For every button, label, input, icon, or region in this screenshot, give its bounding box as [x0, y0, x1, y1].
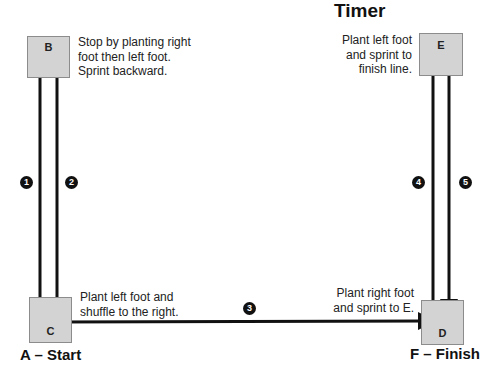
station-d: D — [421, 300, 464, 345]
station-b-letter: B — [28, 41, 69, 53]
finish-label: F – Finish — [410, 345, 480, 362]
station-c-letter: C — [30, 325, 71, 337]
step-marker-2: 2 — [65, 176, 78, 189]
station-e-letter: E — [420, 39, 462, 51]
station-c: C — [29, 297, 72, 343]
step-marker-5: 5 — [459, 176, 472, 189]
start-label: A – Start — [20, 346, 81, 363]
note-b: Stop by planting right foot then left fo… — [78, 35, 191, 79]
step-marker-3: 3 — [243, 302, 256, 315]
station-e: E — [419, 33, 463, 76]
station-d-letter: D — [422, 327, 463, 339]
timer-title: Timer — [334, 0, 385, 22]
note-e: Plant left foot and sprint to finish lin… — [342, 33, 412, 77]
note-c: Plant left foot and shuffle to the right… — [80, 290, 179, 319]
step-marker-1: 1 — [20, 176, 33, 189]
step-marker-4: 4 — [412, 176, 425, 189]
note-d: Plant right foot and sprint to E. — [333, 286, 414, 315]
station-b: B — [27, 36, 70, 78]
arrow-3-c-to-d — [57, 321, 427, 322]
agility-drill-diagram: Timer B C D E Stop by planting right foo… — [0, 0, 492, 379]
